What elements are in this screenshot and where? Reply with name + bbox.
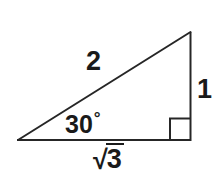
angle-label: 30°: [65, 110, 101, 137]
triangle-outline: [17, 32, 191, 141]
hypotenuse-line: [18, 32, 191, 140]
degree-icon: °: [94, 109, 101, 128]
right-angle-square-icon: [169, 118, 190, 140]
triangle-figure: 2 1 30° √3: [0, 0, 218, 176]
hypotenuse-label: 2: [86, 48, 101, 75]
radicand-value: 3: [106, 143, 124, 173]
radical-expression: √3: [93, 143, 124, 173]
opposite-side-label: 1: [197, 76, 212, 103]
adjacent-side-label: √3: [93, 143, 124, 173]
angle-value: 30: [65, 110, 93, 138]
